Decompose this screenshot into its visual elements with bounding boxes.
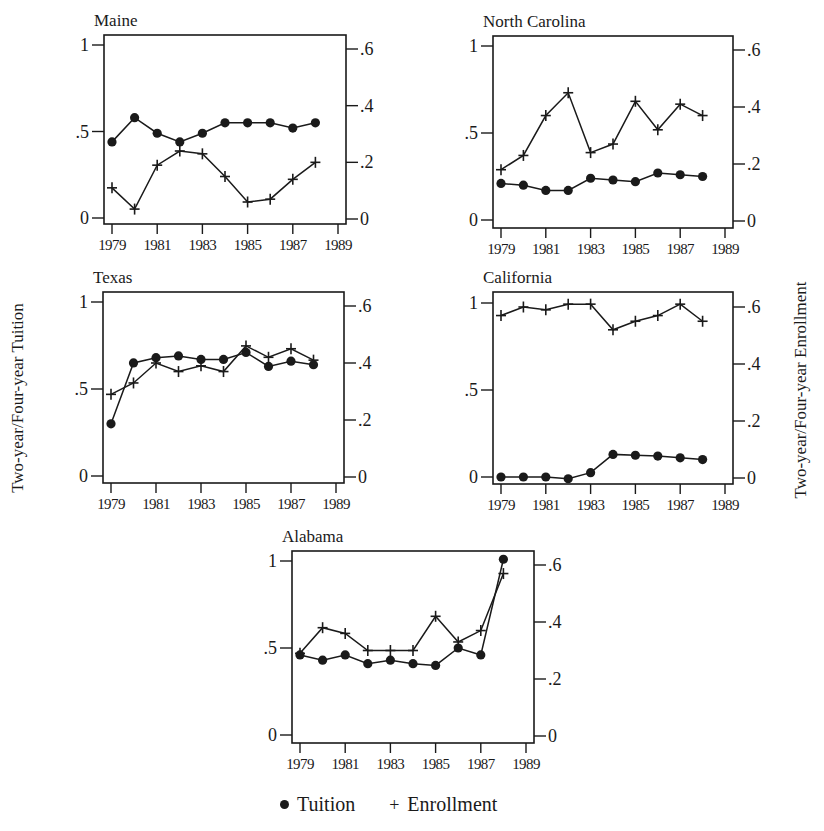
series-line-tuition xyxy=(501,173,703,190)
enrollment-point xyxy=(698,110,708,121)
legend-label-enrollment: Enrollment xyxy=(407,793,497,816)
left-tick-label: 0 xyxy=(469,210,478,230)
plot-frame xyxy=(493,36,733,228)
tuition-point xyxy=(175,137,184,146)
legend: Tuition + Enrollment xyxy=(280,793,497,816)
x-tick-label: 1979 xyxy=(487,497,515,513)
left-tick-label: .5 xyxy=(76,122,90,142)
tuition-point xyxy=(653,452,662,461)
tuition-point xyxy=(341,650,350,659)
left-tick-label: 1 xyxy=(268,551,277,571)
left-tick-label: 1 xyxy=(80,35,89,55)
x-tick-label: 1985 xyxy=(422,756,450,772)
enrollment-point xyxy=(586,147,596,158)
tuition-point xyxy=(519,472,528,481)
x-tick-label: 1987 xyxy=(666,497,695,513)
x-tick-label: 1979 xyxy=(286,756,314,772)
enrollment-point xyxy=(408,645,418,656)
right-tick-label: 0 xyxy=(747,468,756,488)
x-tick-label: 1989 xyxy=(322,496,350,512)
series-line-enrollment xyxy=(112,151,315,209)
tuition-point xyxy=(541,472,550,481)
tuition-point xyxy=(174,351,183,360)
tuition-point xyxy=(496,472,505,481)
plot-frame xyxy=(104,35,346,224)
x-tick-label: 1983 xyxy=(189,237,217,253)
enrollment-point xyxy=(175,146,185,157)
x-tick-label: 1985 xyxy=(622,497,650,513)
series-line-enrollment xyxy=(501,93,703,170)
tuition-point xyxy=(363,659,372,668)
left-tick-label: 0 xyxy=(268,725,277,745)
tuition-point xyxy=(608,175,617,184)
right-tick-label: .4 xyxy=(360,96,374,116)
right-tick-label: .4 xyxy=(747,354,761,374)
x-tick-label: 1979 xyxy=(98,237,126,253)
small-multiples-chart: Maine0.510.2.4.6197919811983198519871989… xyxy=(0,0,824,831)
tuition-point xyxy=(198,129,207,138)
right-tick-label: .4 xyxy=(747,97,761,117)
enrollment-point xyxy=(476,625,486,636)
series-line-enrollment xyxy=(300,574,503,654)
enrollment-point xyxy=(174,366,184,377)
panel-title: North Carolina xyxy=(483,12,586,31)
enrollment-point xyxy=(286,343,296,354)
tuition-point xyxy=(311,118,320,127)
tuition-point xyxy=(676,453,685,462)
tuition-point xyxy=(153,129,162,138)
panel-maine: Maine0.510.2.4.6197919811983198519871989 xyxy=(76,11,374,253)
panel-california: California0.510.2.4.61979198119831985198… xyxy=(465,268,761,513)
tuition-point xyxy=(288,123,297,132)
tuition-point xyxy=(653,168,662,177)
tuition-point xyxy=(264,362,273,371)
panel-title: Alabama xyxy=(282,527,344,546)
panel-title: Texas xyxy=(93,268,132,287)
enrollment-point xyxy=(630,316,640,327)
tuition-point xyxy=(107,137,116,146)
tuition-point xyxy=(698,455,707,464)
left-tick-label: .5 xyxy=(465,380,479,400)
tuition-point xyxy=(698,172,707,181)
x-tick-label: 1989 xyxy=(711,241,739,257)
enrollment-point xyxy=(340,628,350,639)
enrollment-point xyxy=(496,164,506,175)
x-tick-label: 1989 xyxy=(324,237,352,253)
right-tick-label: 0 xyxy=(747,211,756,231)
legend-item-tuition: Tuition xyxy=(280,793,355,816)
enrollment-point xyxy=(698,316,708,327)
plot-frame xyxy=(103,292,344,483)
left-y-axis-label: Two-year/Four-year Tuition xyxy=(8,303,28,493)
right-tick-label: .6 xyxy=(358,296,372,316)
enrollment-point xyxy=(152,160,162,171)
enrollment-point xyxy=(496,310,506,321)
right-tick-label: .2 xyxy=(358,410,372,430)
series-line-enrollment xyxy=(501,304,703,330)
x-tick-label: 1981 xyxy=(331,756,359,772)
x-tick-label: 1981 xyxy=(532,241,560,257)
right-tick-label: .2 xyxy=(360,152,374,172)
left-tick-label: 1 xyxy=(469,36,478,56)
x-tick-label: 1983 xyxy=(187,496,215,512)
series-line-enrollment xyxy=(111,346,314,394)
left-tick-label: 1 xyxy=(469,293,478,313)
left-tick-label: .5 xyxy=(264,638,278,658)
left-tick-label: 1 xyxy=(79,292,88,312)
tuition-point xyxy=(499,555,508,564)
tuition-point xyxy=(564,186,573,195)
tuition-point xyxy=(219,355,228,364)
left-tick-label: 0 xyxy=(469,467,478,487)
tuition-point xyxy=(631,451,640,460)
left-tick-label: .5 xyxy=(75,379,89,399)
tuition-point xyxy=(608,450,617,459)
x-tick-label: 1987 xyxy=(467,756,496,772)
enrollment-point xyxy=(675,299,685,310)
right-tick-label: .4 xyxy=(358,353,372,373)
left-tick-label: 0 xyxy=(79,466,88,486)
x-tick-label: 1989 xyxy=(711,497,739,513)
x-tick-label: 1979 xyxy=(97,496,125,512)
panel-title: Maine xyxy=(94,11,137,30)
right-tick-label: 0 xyxy=(548,726,557,746)
panel-alabama: Alabama0.510.2.4.61979198119831985198719… xyxy=(264,527,562,772)
tuition-point xyxy=(220,118,229,127)
dot-marker-icon xyxy=(280,800,289,809)
